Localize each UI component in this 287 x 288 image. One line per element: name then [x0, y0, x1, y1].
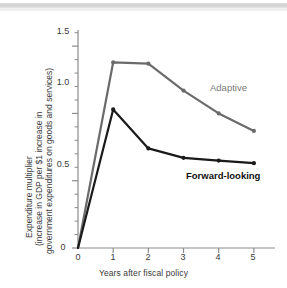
- x-tick-label-0: 0: [68, 252, 88, 262]
- y-axis-ticks: [72, 33, 78, 248]
- data-point: [111, 107, 115, 111]
- data-point: [252, 129, 256, 133]
- data-point: [146, 62, 150, 66]
- y-axis-title-line-3: government expenditures on goods and ser…: [44, 68, 54, 254]
- y-tick-label-0-5: 0.5: [52, 159, 74, 169]
- y-tick-label-1-0: 1.0: [52, 77, 74, 87]
- axis-lines: [78, 30, 275, 248]
- x-tick-label-3: 3: [173, 252, 193, 262]
- x-axis-title: Years after fiscal policy: [0, 268, 287, 278]
- data-point: [217, 158, 221, 162]
- data-point: [181, 88, 185, 92]
- series-label-forward-looking: Forward-looking: [186, 170, 260, 181]
- data-point: [181, 156, 185, 160]
- x-tick-label-1: 1: [103, 252, 123, 262]
- x-tick-label-2: 2: [138, 252, 158, 262]
- y-tick-label-1-5: 1.5: [52, 26, 74, 36]
- x-tick-label-5: 5: [243, 252, 263, 262]
- y-axis-title-line-1: Expenditure multiplier: [24, 156, 34, 238]
- data-point: [252, 161, 256, 165]
- y-tick-label-0: 0: [52, 242, 74, 252]
- data-point: [146, 146, 150, 150]
- y-axis-title-line-2: (increase in GDP per $1 increase in: [34, 112, 44, 247]
- data-point: [111, 60, 115, 64]
- chart-figure: 0 0.5 1.0 1.5 0 1 2 3 4 5 Years after fi…: [0, 0, 287, 288]
- series-label-adaptive: Adaptive: [210, 82, 247, 93]
- data-point: [217, 111, 221, 115]
- x-tick-label-4: 4: [208, 252, 228, 262]
